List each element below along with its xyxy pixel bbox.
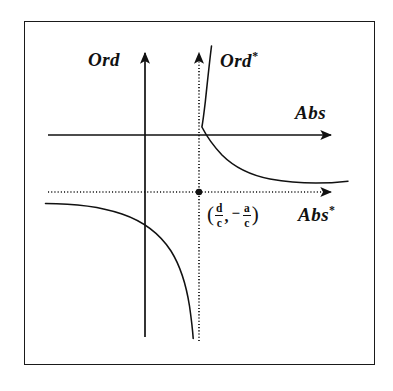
- center-point-dot: [196, 189, 203, 196]
- y-coordinate-fraction: ac: [243, 202, 251, 229]
- minus-sign: −: [231, 205, 240, 221]
- y-denominator: c: [243, 217, 251, 229]
- y-numerator: a: [243, 202, 251, 214]
- hyperbola-lower-left-branch: [46, 204, 194, 339]
- x-coordinate-fraction: dc: [215, 202, 223, 229]
- y-fraction-bar: [243, 215, 251, 216]
- close-paren: ): [252, 202, 259, 226]
- x-fraction-bar: [215, 215, 223, 216]
- open-paren: (: [207, 202, 214, 226]
- center-point-coordinates-label: (dc,−ac): [207, 202, 259, 229]
- x-numerator: d: [215, 202, 223, 214]
- figure-container: Ord Ord* Abs Abs* (dc,−ac): [0, 0, 393, 391]
- abs-star-asterisk: *: [329, 204, 335, 217]
- x-denominator: c: [215, 217, 223, 229]
- abs-axis-label: Abs: [295, 103, 326, 122]
- diagram-canvas: [0, 0, 393, 391]
- ord-star-axis-label: Ord*: [220, 51, 258, 70]
- coordinate-comma: ,: [224, 208, 228, 225]
- abs-star-axis-label: Abs*: [298, 205, 335, 224]
- ord-axis-label: Ord: [88, 50, 120, 69]
- ord-star-asterisk: *: [252, 50, 258, 63]
